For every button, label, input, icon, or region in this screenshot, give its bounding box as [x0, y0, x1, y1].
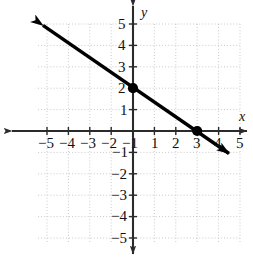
x-tick-label-neg5: −5 — [38, 136, 54, 151]
y-tick-label-1: 1 — [120, 103, 128, 118]
coordinate-plane-graph: y x −5 −4 −3 −2 −1 1 2 3 4 5 5 4 3 2 1 −… — [0, 0, 253, 259]
x-tick-label-4: 4 — [214, 136, 222, 151]
x-tick-label-3: 3 — [193, 136, 201, 151]
y-tick-label-neg4: −4 — [111, 209, 127, 224]
y-axis-label: y — [141, 6, 147, 20]
grid-vertical-lines — [47, 24, 240, 243]
x-tick-label-2: 2 — [172, 136, 180, 151]
point-y-intercept — [128, 83, 138, 93]
y-tick-label-neg2: −2 — [111, 167, 127, 182]
y-tick-label-neg3: −3 — [111, 188, 127, 203]
y-tick-label-2: 2 — [118, 81, 126, 96]
x-tick-label-neg4: −4 — [59, 136, 75, 151]
y-tick-label-3: 3 — [118, 60, 126, 75]
y-tick-label-5: 5 — [118, 17, 126, 32]
x-axis-label: x — [239, 110, 245, 124]
y-tick-label-neg1: −1 — [112, 145, 128, 160]
x-tick-label-1: 1 — [151, 136, 159, 151]
x-tick-label-neg3: −3 — [80, 136, 96, 151]
y-tick-label-4: 4 — [118, 38, 126, 53]
x-tick-label-5: 5 — [236, 136, 244, 151]
y-tick-label-neg5: −5 — [111, 231, 127, 246]
